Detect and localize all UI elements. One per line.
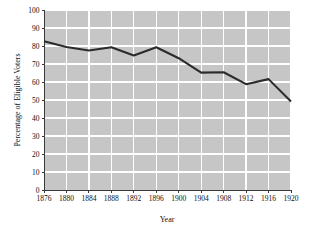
x-axis-tick-label: 1904 <box>194 194 209 203</box>
x-axis-tick-label: 1912 <box>239 194 254 203</box>
x-axis-tick-label: 1916 <box>261 194 276 203</box>
x-axis-tick-label: 1896 <box>149 194 164 203</box>
y-axis-tick-label: 80 <box>32 42 40 51</box>
y-axis-tick-label: 40 <box>32 114 40 123</box>
x-axis-tick-label: 1880 <box>59 194 74 203</box>
y-axis-tick-label: 30 <box>32 132 40 141</box>
x-axis-title: Year <box>160 215 175 224</box>
x-axis-tick-label: 1892 <box>126 194 141 203</box>
y-axis-tick-label: 70 <box>32 60 40 69</box>
y-axis-tick-label: 50 <box>32 96 40 105</box>
y-axis-title: Percentage of Eligible Voters <box>13 53 22 146</box>
y-axis-tick-label: 90 <box>32 24 40 33</box>
y-axis-tick-label: 20 <box>32 150 40 159</box>
x-axis-tick-label: 1908 <box>216 194 231 203</box>
x-axis-tick-label: 1888 <box>104 194 119 203</box>
y-axis-tick-label: 60 <box>32 78 40 87</box>
y-axis-tick-label: 10 <box>32 168 40 177</box>
x-axis-tick-label: 1884 <box>81 194 96 203</box>
y-axis-tick-label: 100 <box>28 6 40 15</box>
x-axis-tick-label: 1876 <box>37 194 52 203</box>
x-axis-tick-label: 1920 <box>284 194 299 203</box>
chart-container: 0102030405060708090100 18761880188418881… <box>0 0 312 235</box>
x-axis-tick-label: 1900 <box>171 194 186 203</box>
line-chart: 0102030405060708090100 18761880188418881… <box>0 0 312 235</box>
